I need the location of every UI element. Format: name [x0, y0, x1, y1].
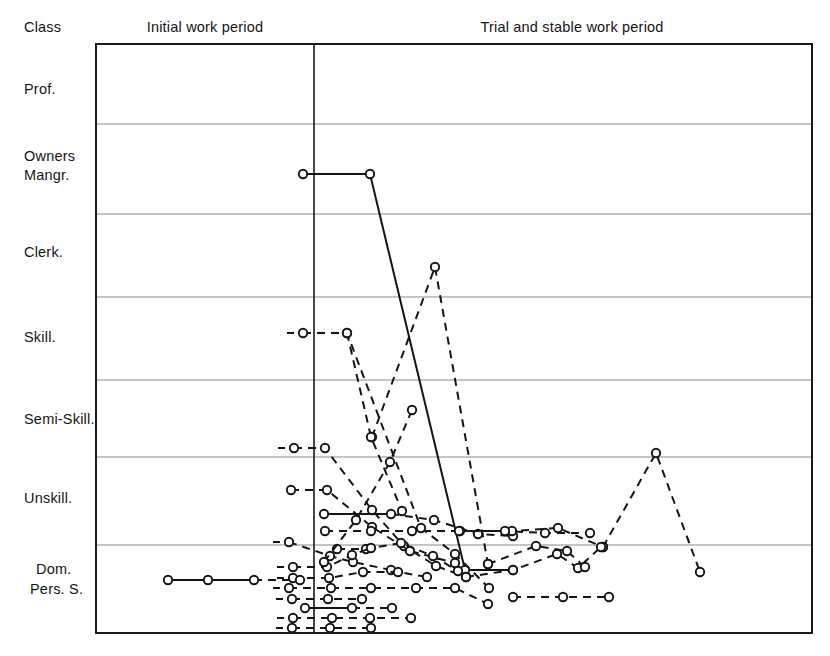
y-axis-label-8: Pers. S.	[30, 581, 83, 597]
data-point-marker	[326, 624, 334, 632]
data-point-marker	[563, 547, 571, 555]
series-line	[303, 174, 513, 570]
data-point-marker	[541, 529, 549, 537]
data-point-marker	[586, 529, 594, 537]
y-axis-label-4: Skill.	[24, 329, 56, 345]
data-point-marker	[597, 543, 605, 551]
data-point-marker	[532, 542, 540, 550]
y-axis-label-3: Clerk.	[24, 244, 63, 260]
data-point-marker	[359, 568, 367, 576]
data-point-marker	[328, 614, 336, 622]
series-line	[603, 453, 700, 572]
data-point-marker	[288, 595, 296, 603]
data-point-marker	[455, 527, 463, 535]
data-point-marker	[325, 574, 333, 582]
data-point-marker	[408, 527, 416, 535]
data-point-marker	[386, 458, 394, 466]
y-axis-label-1: Owners	[24, 148, 75, 164]
class-header-label: Class	[24, 19, 61, 35]
series-line	[347, 333, 402, 511]
data-point-marker	[553, 550, 561, 558]
y-axis-label-2: Mangr.	[24, 167, 70, 183]
data-point-marker	[288, 624, 296, 632]
data-point-marker	[343, 329, 351, 337]
data-point-marker	[164, 576, 172, 584]
data-point-marker	[454, 567, 462, 575]
data-point-marker	[285, 538, 293, 546]
data-point-marker	[320, 510, 328, 518]
data-point-marker	[321, 527, 329, 535]
data-point-marker	[605, 593, 613, 601]
data-point-marker	[285, 584, 293, 592]
data-point-marker	[323, 486, 331, 494]
data-point-marker	[652, 449, 660, 457]
data-point-marker	[412, 584, 420, 592]
data-point-marker	[367, 544, 375, 552]
data-point-marker	[367, 624, 375, 632]
data-point-marker	[509, 593, 517, 601]
data-point-marker	[290, 444, 298, 452]
series-case-19-dashed-right-low	[509, 593, 613, 601]
period-labels-group: Initial work periodTrial and stable work…	[147, 19, 664, 35]
data-point-marker	[581, 563, 589, 571]
data-point-marker	[367, 584, 375, 592]
data-point-marker	[367, 527, 375, 535]
data-point-marker	[368, 506, 376, 514]
data-point-marker	[301, 604, 309, 612]
data-point-marker	[484, 560, 492, 568]
y-axis-label-7: Dom.	[36, 561, 71, 577]
data-point-marker	[324, 595, 332, 603]
data-point-marker	[388, 604, 396, 612]
period-label-1: Trial and stable work period	[480, 19, 663, 35]
series-case-16-solid-dompers-e	[301, 604, 396, 612]
data-point-marker	[299, 329, 307, 337]
series-case-4-dashed-semiskill-fall	[278, 444, 470, 581]
data-point-marker	[398, 507, 406, 515]
class-trajectory-chart: Initial work periodTrial and stable work…	[0, 0, 830, 656]
data-point-marker	[696, 568, 704, 576]
data-point-marker	[484, 600, 492, 608]
data-point-marker	[554, 524, 562, 532]
series-case-18-dashed-dompers-g	[276, 624, 375, 632]
data-point-marker	[430, 516, 438, 524]
data-point-marker	[348, 551, 356, 559]
gridlines-group	[96, 124, 812, 545]
data-point-marker	[250, 576, 258, 584]
data-point-marker	[387, 510, 395, 518]
data-point-marker	[431, 263, 439, 271]
data-point-marker	[429, 552, 437, 560]
y-axis-label-5: Semi-Skill.	[24, 411, 95, 427]
data-point-marker	[204, 576, 212, 584]
data-point-marker	[408, 406, 416, 414]
data-point-marker	[299, 170, 307, 178]
period-label-0: Initial work period	[147, 19, 264, 35]
data-point-marker	[358, 595, 366, 603]
data-point-marker	[287, 486, 295, 494]
data-point-marker	[451, 550, 459, 558]
data-point-marker	[509, 566, 517, 574]
data-point-marker	[407, 614, 415, 622]
data-point-marker	[366, 170, 374, 178]
data-point-marker	[432, 562, 440, 570]
data-point-marker	[451, 584, 459, 592]
series-layer	[164, 170, 704, 632]
series-case-15-dashed-dompers-d	[276, 595, 366, 603]
data-point-marker	[397, 539, 405, 547]
data-point-marker	[394, 568, 402, 576]
data-point-marker	[423, 573, 431, 581]
series-case-17-dashed-dompers-f	[277, 614, 415, 622]
data-point-marker	[366, 614, 374, 622]
data-point-marker	[367, 433, 375, 441]
y-axis-label-6: Unskill.	[24, 490, 72, 506]
data-point-marker	[348, 604, 356, 612]
data-point-marker	[559, 593, 567, 601]
data-point-marker	[352, 516, 360, 524]
data-point-marker	[320, 558, 328, 566]
y-axis-label-0: Prof.	[24, 81, 56, 97]
data-point-marker	[485, 584, 493, 592]
data-point-marker	[501, 527, 509, 535]
data-point-marker	[289, 614, 297, 622]
data-point-marker	[327, 584, 335, 592]
data-point-marker	[289, 563, 297, 571]
figure-root: Initial work periodTrial and stable work…	[0, 0, 830, 656]
